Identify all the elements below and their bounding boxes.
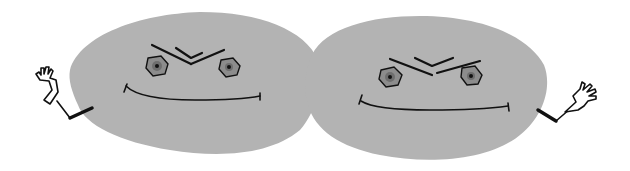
waving-hand-icon — [36, 67, 58, 104]
right-blob-mouth-tick-right — [508, 103, 509, 111]
left-blob-body — [69, 12, 319, 154]
two-blobs-illustration — [0, 0, 630, 171]
right-blob-body — [305, 16, 547, 160]
waving-hand-icon — [565, 82, 596, 112]
right-arm-stub — [538, 110, 556, 121]
left-arm-line — [57, 101, 70, 118]
